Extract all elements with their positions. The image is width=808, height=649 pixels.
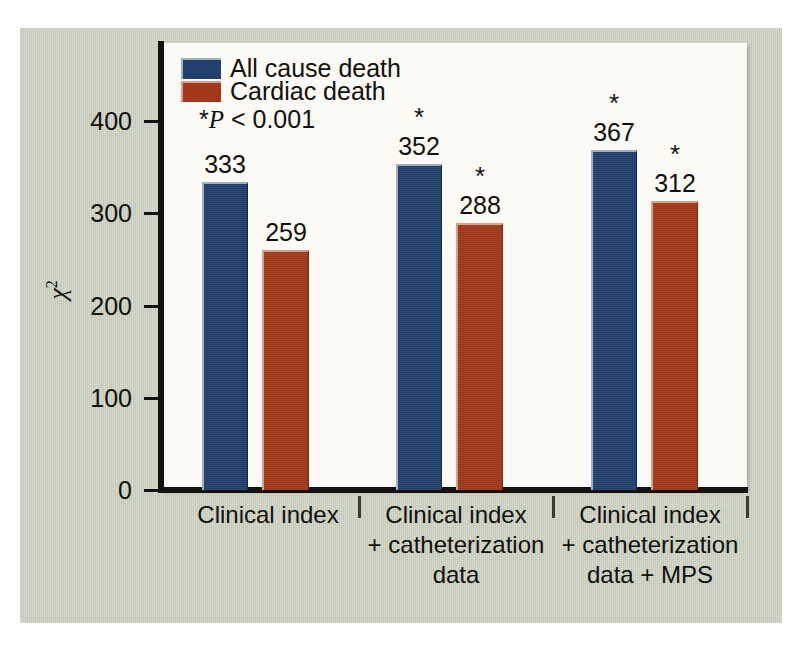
y-axis-line xyxy=(158,41,164,493)
y-axis-tick-label-0: 0 xyxy=(62,476,132,505)
x-axis-category-label-3-line-2: + catheterization xyxy=(554,530,746,560)
note-asterisk: * xyxy=(199,105,209,133)
legend-item-cardiac-death: Cardiac death xyxy=(181,80,401,103)
y-axis-title: χ2 xyxy=(43,280,74,299)
y-axis-tick-200 xyxy=(144,305,160,308)
legend-swatch-blue-icon xyxy=(181,58,221,79)
y-axis-title-exponent: 2 xyxy=(43,280,60,288)
bar-value-all-cause-death-group2: 352 xyxy=(374,132,464,161)
legend-significance-note: *P < 0.001 xyxy=(199,103,401,134)
bar-cardiac-death-group3 xyxy=(651,201,698,490)
bar-cardiac-death-group2 xyxy=(456,223,503,490)
y-axis-tick-0 xyxy=(144,489,160,492)
y-axis-tick-label-100: 100 xyxy=(62,384,132,413)
bar-all-cause-death-group3 xyxy=(591,150,637,490)
bar-significance-star-all-cause-death-group2: * xyxy=(374,110,464,124)
bar-value-cardiac-death-group3: 312 xyxy=(630,169,720,198)
bar-value-all-cause-death-group1: 333 xyxy=(180,150,270,179)
bar-value-all-cause-death-group3: 367 xyxy=(569,118,659,147)
x-axis-category-label-2-line-2: + catheterization xyxy=(360,530,552,560)
legend: All cause death Cardiac death *P < 0.001 xyxy=(181,57,401,134)
y-axis-tick-label-300: 300 xyxy=(62,199,132,228)
bar-significance-star-cardiac-death-group2: * xyxy=(435,169,525,183)
y-axis-tick-400 xyxy=(144,120,160,123)
x-axis-category-label-2-line-3: data xyxy=(360,560,552,590)
bar-significance-star-all-cause-death-group3: * xyxy=(569,96,659,110)
bar-significance-star-cardiac-death-group3: * xyxy=(630,147,720,161)
legend-swatch-red-icon xyxy=(181,81,221,102)
x-axis-category-label-3: Clinical index + catheterization data + … xyxy=(554,500,746,590)
y-axis-tick-300 xyxy=(144,212,160,215)
x-axis-category-label-3-line-3: data + MPS xyxy=(554,560,746,590)
note-p-symbol: P xyxy=(209,106,224,133)
x-axis-category-label-1: Clinical index xyxy=(178,500,358,530)
x-axis-category-label-3-line-1: Clinical index xyxy=(554,500,746,530)
figure-bar-chart: 400 300 200 100 0 χ2 All cause death Car… xyxy=(0,0,808,649)
y-axis-title-chi: χ xyxy=(43,288,72,299)
legend-label-cardiac-death: Cardiac death xyxy=(230,77,386,106)
bar-value-cardiac-death-group1: 259 xyxy=(241,218,331,247)
y-axis-tick-label-400: 400 xyxy=(62,107,132,136)
x-axis-category-label-2: Clinical index + catheterization data xyxy=(360,500,552,590)
y-axis-tick-100 xyxy=(144,397,160,400)
x-axis-category-label-2-line-1: Clinical index xyxy=(360,500,552,530)
x-axis-category-label-1-line-1: Clinical index xyxy=(178,500,358,530)
bar-cardiac-death-group1 xyxy=(262,250,309,490)
x-axis-separator-3 xyxy=(746,496,749,518)
note-threshold: < 0.001 xyxy=(224,105,315,133)
bar-value-cardiac-death-group2: 288 xyxy=(435,191,525,220)
